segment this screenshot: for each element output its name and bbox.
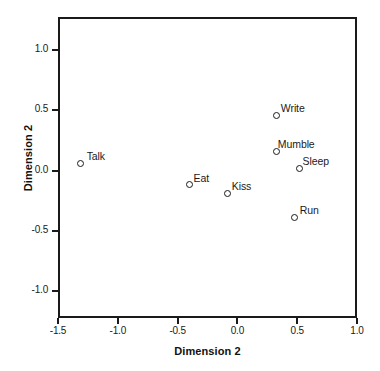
y-tick-mark: [52, 290, 58, 292]
x-axis-title: Dimension 2: [58, 345, 357, 357]
y-tick-mark: [52, 49, 58, 51]
data-point-marker: [77, 160, 84, 167]
x-tick-label: 1.0: [337, 325, 377, 336]
data-point-label: Mumble: [278, 138, 315, 150]
y-tick-mark: [52, 230, 58, 232]
data-point-label: Sleep: [303, 155, 329, 167]
x-tick-mark: [236, 318, 238, 324]
x-tick-mark: [356, 318, 358, 324]
data-point-label: Kiss: [232, 180, 251, 192]
x-tick-label: -0.5: [158, 325, 198, 336]
y-tick-mark: [52, 170, 58, 172]
scatter-plot-figure: -1.5-1.0-0.50.00.51.0 -1.0-0.50.00.51.0 …: [0, 0, 380, 371]
data-point-marker: [273, 112, 280, 119]
x-tick-label: -1.5: [38, 325, 78, 336]
x-tick-label: -1.0: [98, 325, 138, 336]
y-tick-label: -1.0: [8, 284, 48, 295]
data-point-label: Run: [300, 204, 319, 216]
data-point-label: Talk: [87, 150, 105, 162]
plot-area: [58, 17, 357, 318]
x-tick-mark: [57, 318, 59, 324]
x-tick-mark: [296, 318, 298, 324]
x-tick-label: 0.0: [217, 325, 257, 336]
x-tick-mark: [177, 318, 179, 324]
y-axis-title: Dimension 2: [22, 73, 34, 243]
x-tick-mark: [117, 318, 119, 324]
y-tick-label: 1.0: [8, 43, 48, 54]
data-point-label: Write: [281, 102, 305, 114]
data-point-label: Eat: [194, 172, 209, 184]
y-tick-mark: [52, 109, 58, 111]
x-tick-label: 0.5: [277, 325, 317, 336]
